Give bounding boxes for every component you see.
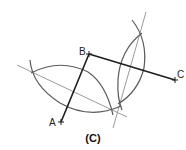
point-a-label: A: [49, 118, 56, 128]
segment-bc: [89, 54, 175, 80]
point-b-marker: [86, 51, 92, 57]
geometry-diagram: [0, 0, 186, 150]
point-b-label: B: [79, 47, 86, 57]
arc-ab-lower: [31, 65, 113, 115]
point-a-marker: [58, 119, 64, 125]
point-c-label: C: [177, 70, 184, 80]
figure-caption: (C): [0, 132, 186, 144]
